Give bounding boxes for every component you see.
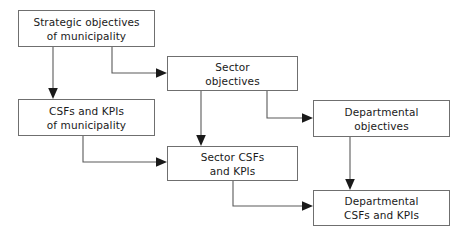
edge-csfs-to-sector-csfs — [83, 136, 160, 162]
edge-sector-csfs-to-departmental-csfs — [233, 181, 306, 206]
arrowhead-icon-down-to-departmental-csfs — [345, 179, 355, 190]
arrowhead-icon-down-to-sector-csfs — [196, 135, 206, 146]
arrowhead-icon-right-to-departmental-csfs — [302, 201, 313, 211]
arrowhead-icon-right-to-sector-csfs — [156, 157, 167, 167]
edge-strategic-to-sector-objectives — [112, 47, 160, 73]
node-sector-csfs-kpis[interactable]: Sector CSFs and KPIs — [167, 146, 298, 181]
node-departmental-objectives[interactable]: Departmental objectives — [313, 100, 450, 137]
node-sector-objectives[interactable]: Sector objectives — [167, 56, 298, 91]
arrowhead-icon-right-to-departmental-objectives — [302, 113, 313, 123]
node-sector-objectives-line1: Sector — [215, 60, 249, 74]
node-strategic-objectives[interactable]: Strategic objectives of municipality — [18, 10, 155, 47]
node-sector-objectives-line2: objectives — [205, 74, 259, 88]
edge-sector-objectives-to-departmental-objectives — [267, 91, 306, 118]
node-departmental-csfs-kpis[interactable]: Departmental CSFs and KPIs — [313, 190, 450, 226]
node-departmental-objectives-line1: Departmental — [344, 105, 418, 119]
node-sector-csfs-kpis-line2: and KPIs — [210, 164, 256, 178]
node-departmental-objectives-line2: objectives — [354, 119, 408, 133]
flowchart-diagram: Strategic objectives of municipality Sec… — [0, 0, 468, 238]
node-csfs-kpis-municipality-line2: of municipality — [47, 118, 126, 132]
arrowhead-icon-down-to-csfs — [48, 88, 58, 99]
node-strategic-objectives-line1: Strategic objectives — [33, 15, 139, 29]
node-csfs-kpis-municipality[interactable]: CSFs and KPIs of municipality — [18, 99, 155, 136]
node-sector-csfs-kpis-line1: Sector CSFs — [201, 150, 265, 164]
node-departmental-csfs-kpis-line1: Departmental — [344, 194, 418, 208]
arrowhead-icon-right-to-sector-objectives — [156, 68, 167, 78]
node-strategic-objectives-line2: of municipality — [47, 29, 126, 43]
node-csfs-kpis-municipality-line1: CSFs and KPIs — [49, 104, 124, 118]
node-departmental-csfs-kpis-line2: CSFs and KPIs — [344, 208, 419, 222]
